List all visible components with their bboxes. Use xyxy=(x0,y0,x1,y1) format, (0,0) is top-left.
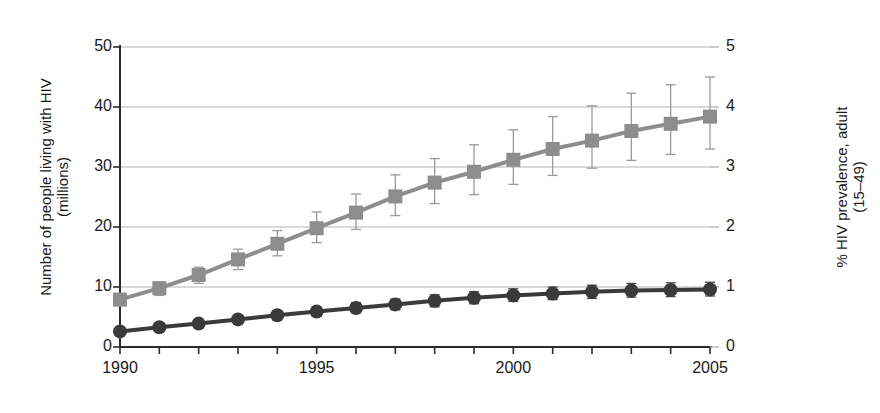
data-point-square xyxy=(113,293,127,307)
data-point-circle xyxy=(310,305,324,319)
data-point-square xyxy=(192,268,206,282)
y-tick-label-left: 20 xyxy=(74,217,112,235)
data-point-circle xyxy=(231,312,245,326)
data-point-circle xyxy=(703,282,717,296)
series-2 xyxy=(113,282,717,338)
data-point-circle xyxy=(270,308,284,322)
data-point-circle xyxy=(585,285,599,299)
data-point-square xyxy=(585,134,599,148)
data-point-circle xyxy=(624,284,638,298)
y-tick-label-left: 10 xyxy=(74,277,112,295)
data-point-circle xyxy=(664,283,678,297)
data-point-square xyxy=(703,110,717,124)
data-point-circle xyxy=(192,317,206,331)
x-tick-label: 1995 xyxy=(282,359,352,377)
data-point-square xyxy=(664,117,678,131)
data-point-square xyxy=(506,153,520,167)
x-tick-label: 2000 xyxy=(478,359,548,377)
y-tick-label-right: 2 xyxy=(726,217,764,235)
y-tick-label-left: 40 xyxy=(74,97,112,115)
series-line xyxy=(120,117,710,300)
y-tick-label-right: 5 xyxy=(726,37,764,55)
y-tick-label-left: 50 xyxy=(74,37,112,55)
data-point-circle xyxy=(428,294,442,308)
data-point-square xyxy=(624,124,638,138)
data-point-square xyxy=(152,281,166,295)
y-tick-label-right: 1 xyxy=(726,277,764,295)
data-point-circle xyxy=(349,301,363,315)
data-point-square xyxy=(270,237,284,251)
data-point-circle xyxy=(546,287,560,301)
data-point-circle xyxy=(113,324,127,338)
data-point-square xyxy=(546,142,560,156)
hiv-epidemic-chart: Number of people living with HIV (millio… xyxy=(0,0,880,413)
data-point-circle xyxy=(388,297,402,311)
data-point-circle xyxy=(506,288,520,302)
y-tick-label-left: 0 xyxy=(74,337,112,355)
y-tick-label-right: 4 xyxy=(726,97,764,115)
y-tick-label-right: 3 xyxy=(726,157,764,175)
y-tick-label-left: 30 xyxy=(74,157,112,175)
data-point-square xyxy=(428,176,442,190)
data-point-circle xyxy=(152,320,166,334)
data-point-square xyxy=(388,189,402,203)
data-point-square xyxy=(467,165,481,179)
data-point-circle xyxy=(467,291,481,305)
data-point-square xyxy=(231,252,245,266)
x-tick-label: 2005 xyxy=(675,359,745,377)
data-point-square xyxy=(310,221,324,235)
data-point-square xyxy=(349,206,363,220)
y-tick-label-right: 0 xyxy=(726,337,764,355)
series-1 xyxy=(113,77,717,307)
x-tick-label: 1990 xyxy=(85,359,155,377)
series-line xyxy=(120,289,710,331)
